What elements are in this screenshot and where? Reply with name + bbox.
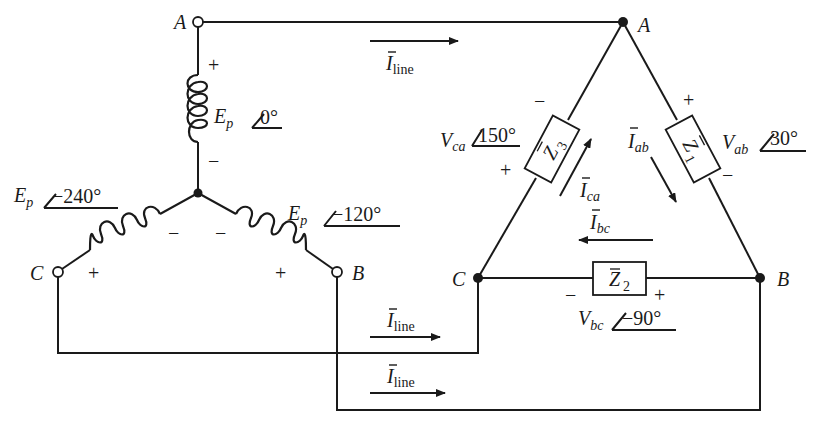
terminal-source-a	[193, 17, 203, 27]
sign-vbc-minus: −	[565, 284, 576, 306]
angle-vbc: −90°	[622, 307, 661, 329]
terminal-source-c	[53, 267, 63, 277]
wire-source-b-outer	[306, 250, 333, 269]
svg-text:Ep: Ep	[13, 184, 33, 210]
terminal-source-b	[332, 267, 342, 277]
coil-phase-c	[90, 207, 160, 250]
label-vab: Vab 30°	[722, 127, 806, 157]
svg-text:Vab: Vab	[722, 131, 748, 157]
svg-text:Iab: Iab	[627, 130, 649, 155]
circuit-diagram: A C B + − + − + − Ep 0° Ep −120° Ep −240…	[0, 0, 821, 427]
wire-ca-lower	[478, 178, 536, 278]
label-load-node-b: B	[777, 268, 789, 290]
node-load-a	[618, 17, 628, 27]
wire-ab-upper	[623, 22, 677, 120]
coil-phase-a	[188, 75, 208, 142]
node-load-c	[473, 273, 483, 283]
angle-ep-minus120: −120°	[332, 203, 381, 225]
label-i-bc: Ibc	[589, 210, 611, 236]
label-source-node-b: B	[352, 262, 364, 284]
angle-ep-minus240: −240°	[52, 185, 101, 207]
wire-ca-upper	[568, 22, 623, 120]
sign-vca-minus: −	[534, 90, 545, 112]
svg-text:Ep: Ep	[213, 105, 233, 131]
sign-phase-c-minus: −	[168, 222, 179, 244]
line-c	[58, 277, 478, 353]
svg-text:2: 2	[623, 279, 630, 294]
sign-vbc-plus: +	[654, 284, 665, 306]
label-source-node-a: A	[172, 11, 187, 33]
impedance-z2: Z 2	[593, 262, 646, 295]
arrow-current-ab	[651, 157, 676, 202]
svg-text:Vca: Vca	[440, 129, 465, 154]
label-ep-0: Ep 0°	[213, 105, 282, 131]
svg-text:Ica: Ica	[579, 179, 600, 204]
label-load-node-c: C	[452, 268, 466, 290]
wire-source-b-inner	[198, 193, 236, 214]
label-source-node-c: C	[30, 262, 44, 284]
label-i-ca: Ica	[579, 178, 600, 204]
svg-text:Ibc: Ibc	[589, 211, 611, 236]
label-vca: Vca 150°	[440, 124, 520, 154]
label-ep-minus120: Ep −120°	[287, 202, 400, 228]
label-load-node-a: A	[636, 14, 651, 36]
angle-vca: 150°	[478, 124, 516, 146]
wire-source-c-inner	[160, 193, 198, 214]
angle-vab: 30°	[770, 127, 798, 149]
svg-text:Z: Z	[609, 268, 621, 290]
sign-phase-b-plus: +	[275, 262, 286, 284]
sign-phase-a-minus: −	[208, 150, 219, 172]
svg-text:Iline: Iline	[386, 365, 415, 390]
impedance-z3: Z 3	[525, 115, 580, 182]
y-source: A C B + − + − + − Ep 0° Ep −120° Ep −240…	[13, 11, 400, 284]
node-load-b	[755, 273, 765, 283]
svg-text:Ep: Ep	[287, 202, 307, 228]
angle-ep-0: 0°	[260, 106, 278, 128]
sign-phase-a-plus: +	[208, 54, 219, 76]
wire-ab-lower	[709, 178, 760, 278]
svg-text:Iline: Iline	[385, 52, 414, 77]
sign-vab-plus: +	[683, 89, 694, 111]
label-i-line-b: Iline	[386, 365, 415, 390]
sign-vca-plus: +	[500, 159, 511, 181]
label-i-line-c: Iline	[386, 309, 415, 334]
sign-vab-minus: −	[722, 164, 733, 186]
wire-source-c-outer	[62, 250, 90, 269]
sign-phase-b-minus: −	[215, 222, 226, 244]
label-vbc: Vbc −90°	[578, 307, 676, 333]
sign-phase-c-plus: +	[88, 262, 99, 284]
label-ep-minus240: Ep −240°	[13, 184, 118, 210]
delta-load: Z 1 Z 3 Z 2 A C	[440, 14, 806, 333]
label-i-line-a: Iline	[385, 52, 414, 77]
label-i-ab: Iab	[627, 128, 649, 155]
svg-text:Vbc: Vbc	[578, 307, 604, 333]
svg-text:Iline: Iline	[386, 309, 415, 334]
impedance-z1: Z 1	[666, 115, 721, 182]
line-b	[337, 277, 760, 410]
